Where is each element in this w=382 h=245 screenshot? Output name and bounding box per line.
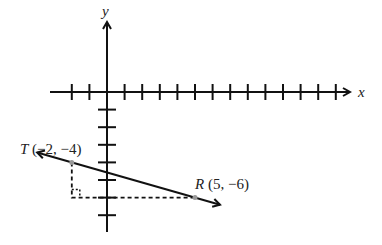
x-axis-label: x	[357, 84, 365, 100]
point-R	[193, 195, 198, 200]
point-T	[69, 160, 74, 165]
coordinate-plane-figure: y x T (−2, −4) R (5, −6)	[0, 0, 382, 245]
point-T-label: T (−2, −4)	[20, 141, 82, 158]
point-R-label: R (5, −6)	[194, 176, 249, 193]
y-axis-label: y	[100, 3, 109, 19]
right-angle-marker	[72, 190, 80, 198]
coordinate-plane: y x T (−2, −4) R (5, −6)	[0, 0, 382, 245]
